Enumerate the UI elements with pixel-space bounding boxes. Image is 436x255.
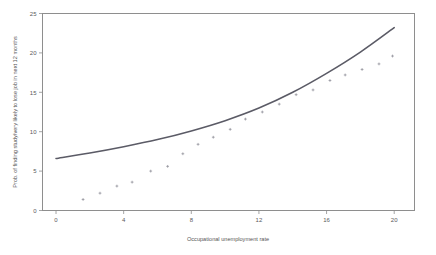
- scatter-chart: 048121620 0510152025 Occupational unempl…: [0, 0, 436, 255]
- x-tick-label: 16: [323, 217, 330, 223]
- y-tick-label: 10: [30, 129, 37, 135]
- y-tick-label: 20: [30, 50, 37, 56]
- x-axis-title: Occupational unemployment rate: [187, 236, 269, 242]
- x-tick-label: 12: [256, 217, 263, 223]
- y-tick-label: 25: [30, 11, 37, 17]
- y-axis-title: Prob. of finding study/very likely to lo…: [12, 36, 18, 188]
- y-tick-label: 15: [30, 90, 37, 96]
- x-tick-label: 20: [391, 217, 398, 223]
- chart-background: [0, 0, 436, 255]
